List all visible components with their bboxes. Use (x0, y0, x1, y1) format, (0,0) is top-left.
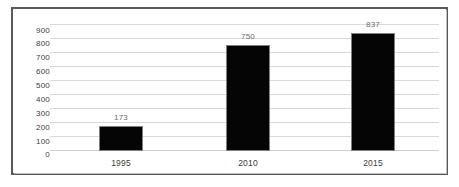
chart-frame: 900 800 700 600 500 400 300 200 100 0 (11, 7, 448, 175)
y-tick-label: 100 (16, 138, 50, 146)
chart-plot-wrapper: 900 800 700 600 500 400 300 200 100 0 (13, 9, 446, 173)
category-label-2010: 2010 (218, 159, 278, 168)
screenshot-root: 900 800 700 600 500 400 300 200 100 0 (0, 0, 459, 187)
plot-area: 173 750 837 1995 2010 2015 (50, 9, 439, 173)
y-tick-label: 400 (16, 96, 50, 104)
y-axis: 900 800 700 600 500 400 300 200 100 0 (13, 9, 50, 173)
category-label-2015: 2015 (343, 159, 403, 168)
y-tick-label: 200 (16, 124, 50, 132)
bar-1995[interactable] (99, 126, 143, 151)
category-label-1995: 1995 (91, 159, 151, 168)
bar-2010[interactable] (226, 45, 270, 151)
y-tick-label: 600 (16, 68, 50, 76)
y-tick-label: 900 (16, 27, 50, 35)
data-label-1995: 173 (99, 114, 143, 122)
y-tick-label: 0 (16, 151, 50, 159)
y-tick-label: 300 (16, 110, 50, 118)
bar-2015[interactable] (351, 33, 395, 151)
y-tick-label: 700 (16, 54, 50, 62)
data-label-2015: 837 (351, 21, 395, 29)
y-tick-label: 500 (16, 82, 50, 90)
y-tick-label: 800 (16, 40, 50, 48)
data-label-2010: 750 (226, 33, 270, 41)
